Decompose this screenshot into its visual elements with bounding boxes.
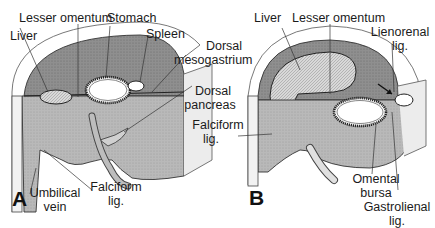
label-falciform-b-2: lig. [196, 133, 226, 146]
label-omental-bursa-b-2: bursa [348, 187, 404, 200]
label-omental-bursa-b-1: Omental [348, 173, 404, 186]
label-lienorenal-b-2: lig. [370, 40, 430, 53]
label-umbilical-vein-a-2: vein [29, 201, 81, 214]
label-dorsal-pancreas-a-1: Dorsal [190, 85, 236, 98]
panel-letter-b: B [249, 186, 264, 210]
label-dorsal-mesogastrium-a-2: mesogastrium [174, 54, 253, 67]
label-stomach-a: Stomach [107, 12, 156, 25]
label-lienorenal-b-1: Lienorenal [370, 26, 430, 39]
label-dorsal-pancreas-a-2: pancreas [184, 99, 236, 112]
front-wall-strip-b [248, 96, 258, 186]
label-spleen-a: Spleen [146, 28, 185, 41]
label-falciform-a-1: Falciform [90, 181, 142, 194]
label-gastrolienal-b-2: lig. [361, 215, 433, 228]
label-falciform-a-2: lig. [90, 195, 142, 208]
label-dorsal-mesogastrium-a-1: Dorsal [194, 40, 254, 53]
label-umbilical-vein-a-1: Umbilical [29, 187, 81, 200]
spleen-a [128, 81, 144, 91]
liver-a [40, 90, 72, 104]
label-liver-a: Liver [10, 30, 37, 43]
label-lesser-omentum-a: Lesser omentum [19, 12, 112, 25]
spleen-b [395, 94, 413, 106]
panel-letter-a: A [12, 187, 27, 211]
label-lesser-omentum-b: Lesser omentum [292, 12, 385, 25]
label-falciform-b-1: Falciform [188, 119, 248, 132]
label-gastrolienal-b-1: Gastrolienal [361, 201, 433, 214]
label-liver-b: Liver [254, 12, 281, 25]
